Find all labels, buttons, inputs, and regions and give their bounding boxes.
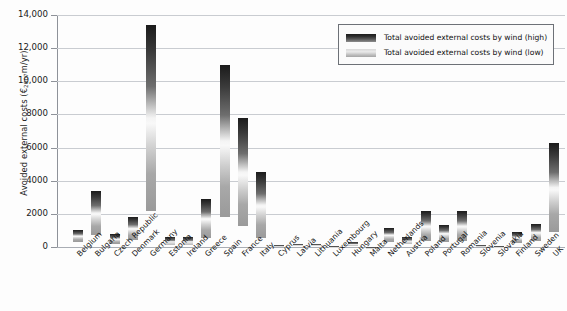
legend-swatch-low-icon	[346, 49, 376, 57]
legend-swatch-high-icon	[346, 34, 376, 42]
bar	[73, 230, 83, 242]
y-axis-tick	[51, 181, 57, 182]
gridline	[57, 181, 565, 182]
bar	[146, 25, 156, 211]
y-axis-tick-label: 6000	[26, 142, 48, 152]
y-axis-line	[57, 15, 58, 247]
y-axis-tick	[51, 148, 57, 149]
y-axis-tick	[51, 48, 57, 49]
legend-entry-low[interactable]: Total avoided external costs by wind (lo…	[346, 45, 546, 60]
legend-label-high: Total avoided external costs by wind (hi…	[384, 33, 547, 42]
y-axis-tick-label: 4000	[26, 175, 48, 185]
gridline	[57, 81, 565, 82]
legend-label-low: Total avoided external costs by wind (lo…	[384, 48, 544, 57]
y-axis-tick	[51, 114, 57, 115]
bar	[238, 118, 248, 227]
y-axis-tick	[51, 214, 57, 215]
y-axis-tick-label: 12,000	[18, 42, 48, 52]
y-axis-tick-label: 10,000	[18, 75, 48, 85]
chart-legend: Total avoided external costs by wind (hi…	[338, 24, 554, 65]
y-axis-tick-label: 8000	[26, 108, 48, 118]
y-axis-title-suffix: m/yr)	[19, 50, 29, 73]
y-axis-tick	[51, 81, 57, 82]
gridline	[57, 214, 565, 215]
bar	[256, 172, 266, 237]
y-axis-tick-label: 14,000	[18, 9, 48, 19]
gridline	[57, 15, 565, 16]
y-axis-tick	[51, 15, 57, 16]
y-axis-tick-label: 2000	[26, 208, 48, 218]
y-axis-tick	[51, 247, 57, 248]
y-axis-tick-label: 0	[43, 241, 48, 251]
gridline	[57, 148, 565, 149]
bar	[549, 143, 559, 232]
gridline	[57, 114, 565, 115]
bar	[201, 199, 211, 238]
legend-entry-high[interactable]: Total avoided external costs by wind (hi…	[346, 30, 546, 45]
bar	[220, 65, 230, 217]
chart-figure: Avoided external costs (€2007m/yr) 02000…	[0, 0, 567, 311]
